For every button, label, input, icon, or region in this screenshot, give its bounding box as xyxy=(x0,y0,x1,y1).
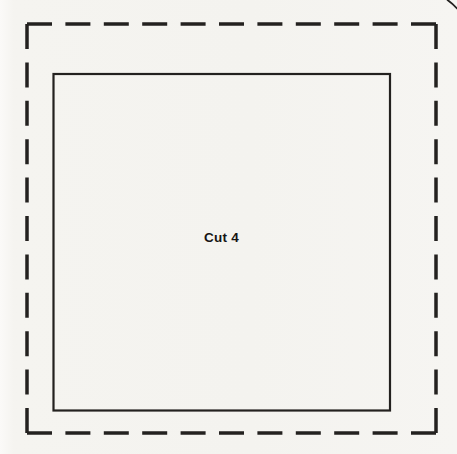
seam-line-solid-border xyxy=(54,74,391,411)
corner-stroke-mark xyxy=(448,0,457,9)
pattern-sheet: Cut 4 xyxy=(0,0,457,454)
pattern-piece-diagram xyxy=(0,0,457,454)
cutting-line-dashed-border xyxy=(27,24,436,433)
